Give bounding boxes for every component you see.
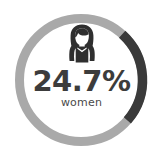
donut-ring-chart [0, 0, 163, 162]
women-percentage-donut-widget: 24.7% women [0, 0, 163, 162]
